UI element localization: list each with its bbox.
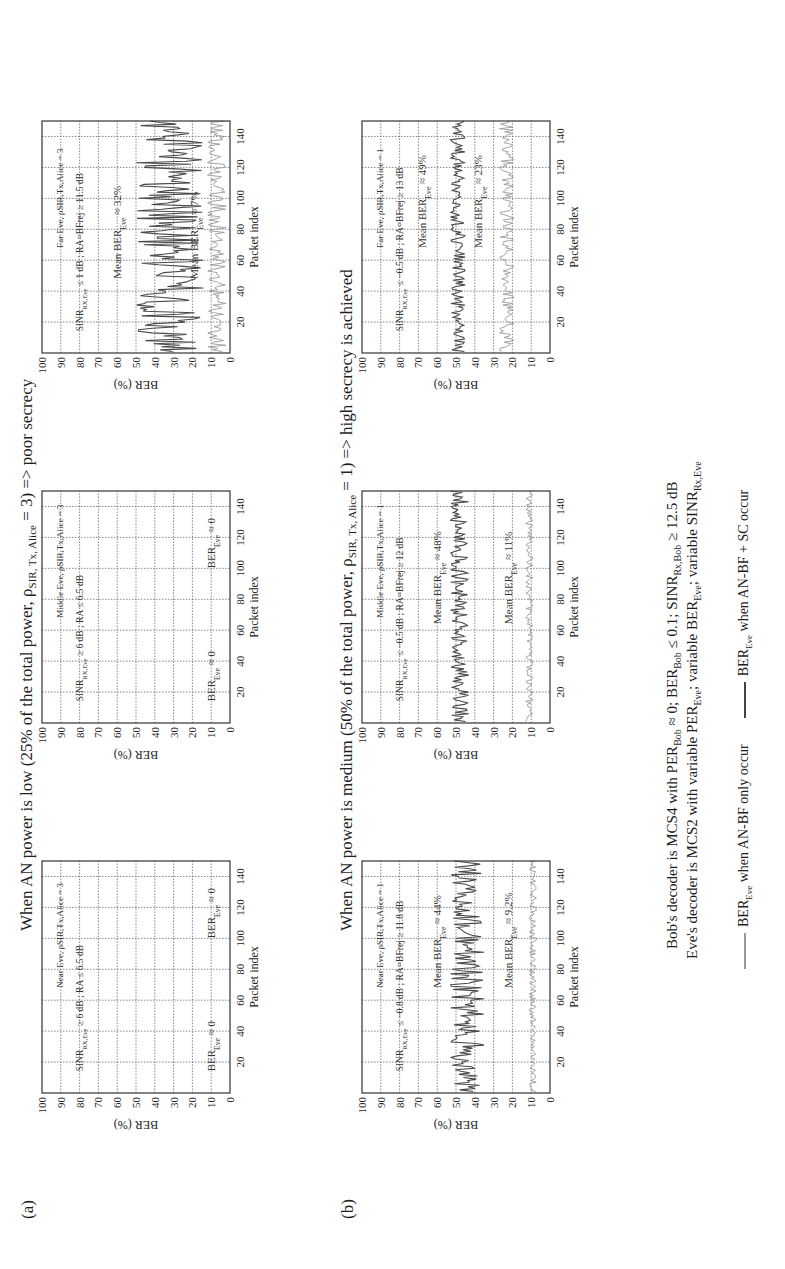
series-an-bf-only [526,491,534,722]
x-tick-label: 60 [234,624,246,636]
chart-svg: 010203040506070809010020406080100120140P… [357,91,589,391]
x-axis-label: Packet index [567,576,581,638]
x-tick-label: 80 [234,963,246,975]
series-an-bf-only [208,121,227,352]
x-tick-label: 140 [554,498,566,515]
y-tick-label: 70 [92,727,104,739]
y-tick-label: 30 [488,1097,500,1109]
x-tick-label: 100 [554,190,566,207]
legend: BEREve when AN-BF only occur BEREve when… [736,490,754,969]
y-tick-label: 0 [224,1097,236,1103]
row-title-a: When AN power is low (25% of the total p… [17,379,38,931]
grid [42,121,230,353]
y-tick-label: 60 [431,727,443,739]
y-tick-label: 30 [168,357,180,369]
x-tick-label: 20 [234,1056,246,1068]
x-tick-label: 120 [554,529,566,546]
legend-swatch-an-bf-sc [744,682,746,718]
grid [362,861,550,1093]
x-axis-label: Packet index [247,946,261,1008]
y-tick-label: 90 [375,1097,387,1109]
chart-svg: 010203040506070809010020406080100120140P… [357,831,589,1131]
annotation-mean-an-bf-sc: Mean BEREve ≈ 32% [111,186,128,279]
legend-label-an-bf-only: BEREve when AN-BF only occur [736,744,754,927]
y-tick-label: 50 [450,727,462,739]
x-tick-label: 120 [554,159,566,176]
x-tick-label: 140 [554,128,566,145]
row-title-b-prefix: When AN power is medium (50% of the tota… [337,558,356,931]
y-tick-label: 40 [149,727,161,739]
plot-frame [362,861,550,1093]
x-tick-label: 40 [234,1025,246,1037]
y-tick-label: 50 [130,727,142,739]
chart-middle-eve-medium: 010203040506070809010020406080100120140P… [357,461,589,761]
x-tick-label: 140 [554,868,566,885]
y-tick-label: 90 [55,727,67,739]
chart-far-eve-low: 010203040506070809010020406080100120140P… [37,91,269,391]
y-tick-label: 0 [544,357,556,363]
x-tick-label: 60 [554,254,566,266]
series-an-bf-sc [451,121,466,352]
chart-svg: 010203040506070809010020406080100120140P… [37,831,269,1131]
x-tick-label: 140 [234,868,246,885]
y-tick-label: 70 [412,357,424,369]
chart-svg: 010203040506070809010020406080100120140P… [37,91,269,391]
grid [42,491,230,723]
chart-svg: 010203040506070809010020406080100120140P… [37,461,269,761]
x-tick-label: 40 [234,655,246,667]
annotation-mean-an-bf-only: Mean BEREve ≈ 23% [472,155,489,248]
y-tick-label: 80 [394,357,406,369]
y-tick-label: 40 [469,357,481,369]
y-tick-label: 30 [488,357,500,369]
y-tick-label: 60 [111,357,123,369]
y-tick-label: 60 [431,1097,443,1109]
x-tick-label: 20 [234,316,246,328]
x-axis-label: Packet index [567,946,581,1008]
chart-header: Middle Eve, ρSIR,Tx,Alice = 3 [55,504,65,618]
annotation-mean-an-bf-sc: Mean BEREve ≈ 48% [431,531,448,624]
annotation-mean-an-bf-sc: Mean BEREve ≈ 49% [416,155,433,248]
y-tick-label: 20 [506,357,518,369]
x-tick-label: 100 [234,560,246,577]
annotation-mean-an-bf-sc: Mean BEREve ≈ 44% [431,895,448,988]
x-tick-label: 40 [234,285,246,297]
x-tick-label: 100 [554,930,566,947]
x-tick-label: 100 [234,190,246,207]
x-tick-label: 60 [554,994,566,1006]
annotation-mean-an-bf-only: Mean BEREve ≈ 7% [188,191,205,278]
legend-swatch-an-bf-only [744,933,746,969]
y-tick-label: 90 [375,727,387,739]
y-tick-label: 80 [74,1097,86,1109]
annotation-mean-an-bf-only: BEREve ≈ 0 [205,887,222,938]
y-tick-label: 10 [205,1097,217,1109]
y-tick-label: 90 [55,1097,67,1109]
x-axis-label: Packet index [247,206,261,268]
y-tick-label: 100 [36,1097,48,1114]
row-title-a-prefix: When AN power is low (25% of the total p… [17,588,36,931]
plot-frame [42,861,230,1093]
y-tick-label: 10 [525,1097,537,1109]
chart-header: Far Eve, ρSIR,Tx,Alice = 1 [375,149,385,248]
figure: (a) When AN power is low (25% of the tot… [0,0,785,1269]
annotation-mean-an-bf-only: Mean BEREve ≈ 11% [502,532,519,624]
chart-header: Middle Eve, ρSIR,Tx,Alice = 1 [375,505,385,618]
y-tick-label: 80 [74,357,86,369]
y-tick-label: 50 [450,357,462,369]
x-tick-label: 60 [234,994,246,1006]
y-tick-label: 50 [450,1097,462,1109]
y-tick-label: 40 [149,357,161,369]
y-tick-label: 10 [525,357,537,369]
row-title-a-suffix: = 3) => poor secrecy [17,379,36,525]
y-tick-label: 20 [186,727,198,739]
y-tick-label: 100 [36,357,48,374]
x-tick-label: 140 [234,128,246,145]
y-tick-label: 70 [412,1097,424,1109]
chart-near-eve-low: 010203040506070809010020406080100120140P… [37,831,269,1131]
y-axis-label: BER (%) [114,378,158,392]
chart-svg: 010203040506070809010020406080100120140P… [357,461,589,761]
y-tick-label: 10 [205,357,217,369]
y-tick-label: 40 [469,1097,481,1109]
y-tick-label: 70 [92,357,104,369]
plot-frame [42,121,230,353]
x-tick-label: 120 [234,159,246,176]
